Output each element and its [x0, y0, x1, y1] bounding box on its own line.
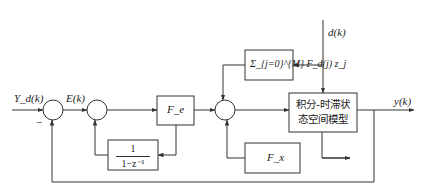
plant-label-line2: 态空间模型 [289, 112, 357, 127]
reference-signal-label: Y_d(k) [14, 93, 43, 104]
summing-junction-3 [215, 100, 235, 120]
integrator-denominator: 1−z⁻¹ [108, 159, 158, 169]
plant-block: 积分-时滞状 态空间模型 [289, 97, 357, 127]
fraction-bar [116, 156, 150, 157]
disturbance-signal-label: d(k) [328, 27, 346, 38]
integrator-numerator: 1 [108, 144, 158, 154]
preview-block: Σ_{j=0}^{M} F_d(j) z_j [250, 59, 346, 69]
state-feedback-block-fx: F_x [267, 152, 284, 163]
summing-junction-1 [43, 100, 63, 120]
block-diagram: Y_d(k) E(k) − d(k) y(k) F_e 1 1−z⁻¹ Σ_{j… [0, 0, 426, 191]
output-signal-label: y(k) [394, 96, 411, 107]
controller-block-fe: F_e [167, 104, 184, 115]
summing-junction-2 [87, 100, 107, 120]
plant-label-line1: 积分-时滞状 [289, 97, 357, 112]
diagram-lines [0, 0, 426, 191]
integrator-block: 1 1−z⁻¹ [108, 144, 158, 169]
error-signal-label: E(k) [66, 93, 85, 104]
minus-sign: − [36, 117, 42, 128]
